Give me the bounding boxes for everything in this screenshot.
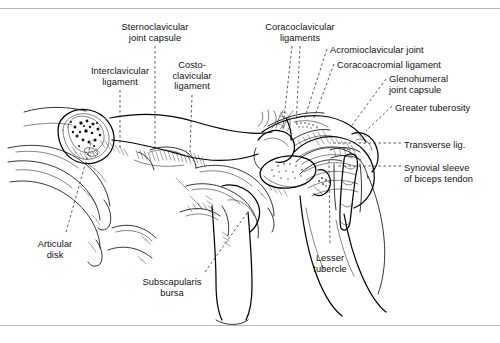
anatomy-figure: Sternoclavicular joint capsule Interclav… <box>0 0 500 343</box>
label-glenohumeral-joint-capsule: Glenohumeral joint capsule <box>389 74 499 95</box>
label-acromioclavicular-joint: Acromioclavicular joint <box>330 45 500 56</box>
label-sternoclavicular-joint-capsule: Sternoclavicular joint capsule <box>95 22 215 43</box>
label-subscapularis-bursa: Subscapularis bursa <box>122 277 222 298</box>
leader-glenohumeral-joint-capsule <box>352 79 386 125</box>
label-transverse-ligament: Transverse lig. <box>404 140 500 151</box>
coracoid-process <box>254 110 332 170</box>
lower-costal-cartilages <box>108 225 156 264</box>
leader-coracoacromial-ligament <box>314 64 334 118</box>
leader-lesser-tubercle <box>329 160 330 243</box>
leader-coracoclavicular-ligaments-a <box>283 46 292 128</box>
label-costoclavicular-ligament: Costo- clavicular ligament <box>152 60 232 92</box>
humerus-shaft <box>300 176 386 316</box>
scapula-and-subscapularis-bursa <box>180 185 260 325</box>
label-lesser-tubercle: Lesser tubercle <box>295 253 365 274</box>
leader-costoclavicular-ligament <box>190 95 192 152</box>
leader-greater-tuberosity <box>366 106 392 131</box>
label-coracoacromial-ligament: Coracoacromial ligament <box>337 60 500 71</box>
label-articular-disk: Articular disk <box>15 239 95 260</box>
leader-acromioclavicular-joint <box>304 49 327 120</box>
label-coracoclavicular-ligaments: Coracoclavicular ligaments <box>240 22 360 43</box>
leader-subscapularis-bursa <box>205 213 247 272</box>
clavicle-cut-section <box>58 109 114 163</box>
label-greater-tuberosity: Greater tuberosity <box>395 103 500 114</box>
right-ribs <box>176 165 274 238</box>
label-synovial-sleeve-of-biceps-tendon: Synovial sleeve of biceps tendon <box>404 163 500 184</box>
